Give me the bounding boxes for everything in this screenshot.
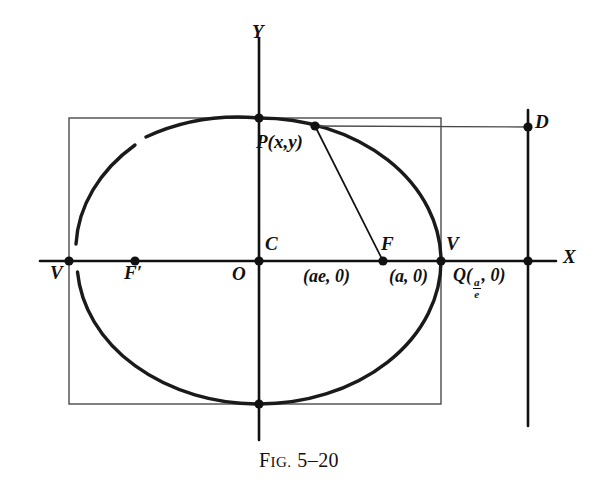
caption-number: 5–20 <box>297 449 339 471</box>
q-prefix: Q( <box>453 265 472 285</box>
dot-focus-right <box>378 256 387 265</box>
fraction-numerator: a <box>473 277 481 289</box>
ellipse-diagram <box>0 0 598 497</box>
q-suffix: , 0) <box>482 265 506 285</box>
focus-left-label: F′ <box>124 263 142 282</box>
dot-directrix-foot <box>523 256 532 265</box>
caption-prefix-rest: IG. <box>271 454 292 470</box>
origin-label: O <box>232 264 246 283</box>
dot-center <box>254 256 263 265</box>
vertex-coordinate-label: (a, 0) <box>389 267 428 285</box>
ellipse-curve-upper-left <box>76 145 135 244</box>
segment-pd <box>315 126 528 127</box>
fraction-denominator: e <box>473 289 481 301</box>
dot-vertex-left <box>64 256 73 265</box>
directrix-foot-coordinate-label: Q(ae, 0) <box>453 266 506 301</box>
center-label: C <box>265 234 278 253</box>
focus-right-label: F <box>381 234 394 253</box>
dot-vertex-right <box>436 256 445 265</box>
dot-directrix-point <box>523 122 532 131</box>
dot-minor-bottom <box>254 399 263 408</box>
caption-prefix-lead: F <box>259 449 271 471</box>
point-p-label: P(x,y) <box>256 132 303 151</box>
figure-container: X Y P(x,y) V F′ C O F V D (ae, 0) (a, 0)… <box>0 0 598 497</box>
segment-pf <box>315 126 383 261</box>
y-axis-label: Y <box>252 22 264 41</box>
directrix-point-label: D <box>535 112 549 131</box>
figure-caption: FIG.5–20 <box>0 449 598 472</box>
fraction-a-over-e: ae <box>473 277 481 301</box>
dot-minor-top <box>254 113 263 122</box>
dot-point-p <box>310 121 319 130</box>
ellipse-curve-top-left <box>146 117 259 137</box>
vertex-left-label: V <box>50 263 63 282</box>
x-axis-label: X <box>563 247 576 266</box>
focus-coordinate-label: (ae, 0) <box>303 267 350 285</box>
vertex-right-label: V <box>446 234 459 253</box>
